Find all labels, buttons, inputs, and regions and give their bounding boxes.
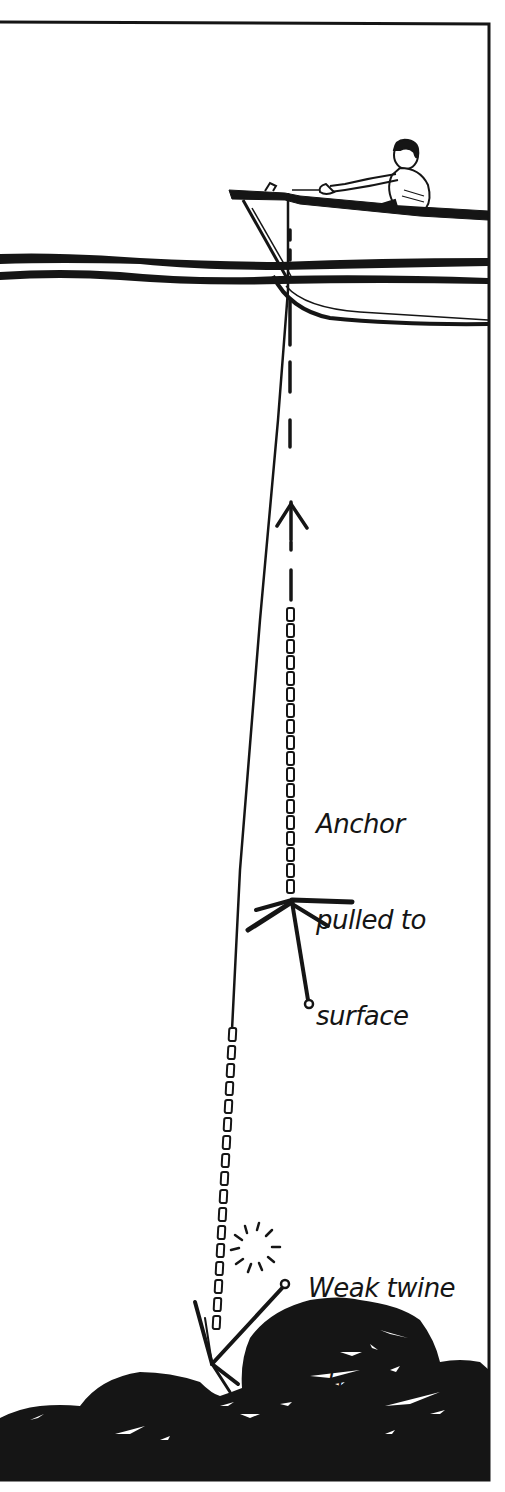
label-line: surface <box>316 1000 426 1032</box>
water-surface <box>0 254 488 285</box>
label-line: pulled to <box>316 904 426 936</box>
label-line: Weak twine <box>308 1272 455 1304</box>
up-arrow-icon <box>277 502 307 540</box>
dashed-pull-path <box>290 230 291 600</box>
label-weak-twine-breaks: Weak twine breaks <box>308 1208 455 1464</box>
snap-burst-icon <box>231 1223 280 1272</box>
rowboat-icon <box>229 183 488 324</box>
label-line: breaks <box>308 1368 455 1400</box>
illustration-panel: Anchor pulled to surface Weak twine brea… <box>0 0 505 1492</box>
label-anchor-pulled-to-surface: Anchor pulled to surface <box>316 744 426 1096</box>
chain-upper <box>287 608 294 893</box>
chain-lower <box>213 1028 237 1329</box>
label-line: Anchor <box>316 808 426 840</box>
